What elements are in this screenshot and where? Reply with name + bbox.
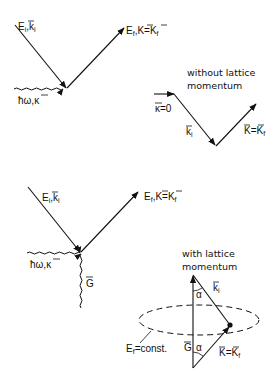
kf-label: K=Kf — [244, 125, 265, 137]
incoming-label: Ei,ki — [18, 21, 36, 33]
ef-const-label: Ef=const. — [126, 343, 167, 355]
scattering-diagram: Ei,ki Ef,K=Kf ħω,κ without lattice momen… — [0, 0, 280, 377]
top-scattering-vertex: Ei,ki Ef,K=Kf ħω,κ — [14, 21, 167, 106]
without-lattice-momentum-diagram: without lattice momentum κ=0 ki K=Kf — [154, 67, 265, 146]
photon-label: ħω,κ — [30, 259, 52, 270]
caption-without-lattice-line1: without lattice — [187, 67, 256, 78]
kappa-zero-label: κ=0 — [155, 103, 172, 114]
alpha-bottom-label: α — [196, 342, 202, 353]
outgoing-electron-arrow — [81, 192, 138, 252]
ki-label: ki — [213, 282, 220, 294]
caption-with-lattice-line1: with lattice — [182, 248, 235, 259]
lattice-vector-wavy-arrow — [80, 254, 82, 308]
outgoing-label: Ef,K=Kf — [126, 25, 159, 37]
lattice-vector-label: G — [86, 278, 94, 289]
constant-energy-ellipse — [139, 305, 259, 335]
with-lattice-momentum-diagram: with lattice momentum α α ki G K=Kf Ef=c… — [126, 248, 259, 368]
outgoing-label: Ef,K=Kf — [144, 191, 177, 203]
photon-label: ħω,κ — [18, 95, 40, 106]
incoming-label: Ei,ki — [42, 192, 60, 204]
ef-leader-line — [140, 331, 151, 343]
alpha-top-label: α — [196, 289, 202, 300]
caption-with-lattice-line2: momentum — [182, 261, 237, 272]
photon-wavy-arrow — [27, 252, 80, 254]
ki-line — [193, 275, 230, 325]
bottom-scattering-vertex: Ei,ki Ef,K=Kf ħω,κ G — [27, 187, 182, 308]
kf-label: K=Kf — [219, 347, 240, 359]
ki-label: ki — [186, 126, 193, 138]
outgoing-electron-arrow — [67, 28, 124, 88]
ki-arrow — [174, 94, 215, 145]
g-label: G — [184, 342, 192, 353]
vertex-dot — [227, 322, 232, 327]
caption-without-lattice-line2: momentum — [187, 80, 242, 91]
photon-wavy-arrow — [14, 88, 63, 90]
incoming-electron-arrow — [15, 25, 66, 88]
